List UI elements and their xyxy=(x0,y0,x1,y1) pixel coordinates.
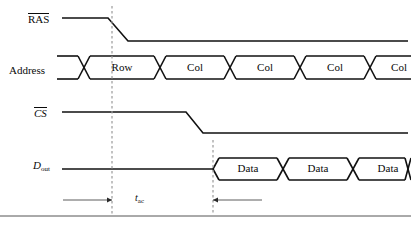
bus-segment-label-dout-2: Data xyxy=(358,163,411,174)
tac-right-arrow-head xyxy=(213,198,218,203)
bus-segment-label-address-1: Col xyxy=(165,62,225,73)
signal-label-cs: CS xyxy=(34,107,47,120)
signal-waveform-cs xyxy=(62,112,408,133)
timing-diagram-canvas xyxy=(0,0,411,231)
bus-segment-label-dout-0: Data xyxy=(218,163,278,174)
timing-measure-arrows xyxy=(63,198,262,203)
signal-label-ras: RAS xyxy=(28,13,49,26)
signal-label-ras-text: RAS xyxy=(28,13,49,26)
signal-label-dout: Dout xyxy=(33,160,50,173)
signal-label-address: Address xyxy=(9,65,45,76)
timing-diagram-figure: RAS Address CS Dout RowColColColColDataD… xyxy=(0,0,411,231)
signal-label-dout-base: D xyxy=(33,159,41,171)
signal-waveform-ras xyxy=(62,18,408,41)
bus-segment-label-address-0: Row xyxy=(92,62,152,73)
timing-label-tac-subscript: ac xyxy=(138,197,144,205)
bus-segment-label-dout-1: Data xyxy=(288,163,348,174)
tac-left-arrow-head xyxy=(107,198,112,203)
reference-lines xyxy=(112,6,213,215)
bus-segment-label-address-4: Col xyxy=(369,62,411,73)
signal-label-cs-text: CS xyxy=(34,107,47,120)
bus-segment-label-address-2: Col xyxy=(235,62,295,73)
timing-label-tac: tac xyxy=(135,192,144,205)
signal-label-dout-subscript: out xyxy=(41,165,50,173)
bus-segment-label-address-3: Col xyxy=(305,62,365,73)
